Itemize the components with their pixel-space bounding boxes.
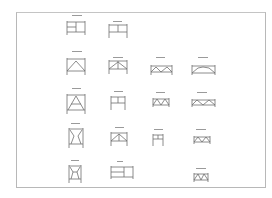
frame-caption (114, 91, 123, 92)
frame-caption (113, 21, 122, 22)
frame-caption (72, 88, 81, 89)
frame-caption (117, 161, 123, 162)
frame-caption (113, 57, 123, 58)
frame-caption (197, 92, 207, 93)
frame-caption (156, 57, 165, 58)
frame-caption (154, 129, 163, 130)
frame-caption (71, 123, 80, 124)
frame-caption (196, 129, 206, 130)
frame-caption (198, 57, 208, 58)
frame-caption (156, 92, 165, 93)
frame-caption (72, 15, 82, 16)
drawing-sheet-border (16, 12, 266, 188)
frame-caption (115, 127, 124, 128)
frame-caption (71, 160, 79, 161)
frame-caption (196, 168, 206, 169)
frame-caption (72, 51, 82, 52)
